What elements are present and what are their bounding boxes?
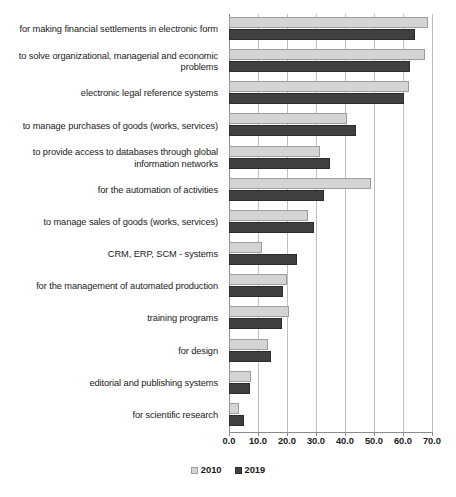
legend-swatch-2019-icon [235,467,242,474]
bar-2019 [229,383,250,394]
bar-2019 [229,351,271,362]
bar-2010 [229,49,425,60]
bar-group [229,14,432,46]
bar-2010 [229,81,409,92]
bar-group [229,368,432,400]
bar-2010 [229,242,262,253]
category-label: to manage sales of goods (works, service… [0,217,224,229]
bar-group [229,143,432,175]
legend-label-2019: 2019 [245,466,266,475]
bar-group [229,271,432,303]
bar-2010 [229,210,308,221]
bar-group [229,207,432,239]
bar-2019 [229,415,244,426]
bar-2010 [229,339,268,350]
bar-2010 [229,178,371,189]
legend-swatch-2010-icon [191,467,198,474]
bar-2019 [229,125,356,136]
category-label: for making financial settlements in elec… [0,24,224,36]
category-label: for design [0,346,224,358]
chart-legend: 2010 2019 [0,466,456,475]
bar-2019 [229,190,324,201]
bar-2010 [229,371,251,382]
bar-group [229,303,432,335]
bar-chart: for making financial settlements in elec… [0,0,456,497]
bar-2019 [229,286,283,297]
category-label: CRM, ERP, SCM - systems [0,249,224,261]
category-label: training programs [0,313,224,325]
bar-group [229,46,432,78]
bar-2010 [229,146,320,157]
category-label: to provide access to databases through g… [0,147,224,170]
bar-group [229,239,432,271]
bar-2010 [229,306,289,317]
bar-2010 [229,17,428,28]
category-label: for the automation of activities [0,185,224,197]
gridline-70.0 [432,14,433,432]
bar-group [229,175,432,207]
bar-2019 [229,222,314,233]
bar-2019 [229,93,404,104]
legend-label-2010: 2010 [201,466,222,475]
bar-2010 [229,274,287,285]
bar-group [229,336,432,368]
x-tick-label-70.0: 70.0 [412,436,452,446]
bar-group [229,110,432,142]
category-label: editorial and publishing systems [0,378,224,390]
category-label: to manage purchases of goods (works, ser… [0,121,224,133]
legend-item-2019: 2019 [235,466,266,475]
category-label: for the management of automated producti… [0,281,224,293]
bar-2019 [229,29,415,40]
bar-2019 [229,158,330,169]
category-label: for scientific research [0,410,224,422]
legend-item-2010: 2010 [191,466,222,475]
bar-group [229,400,432,432]
plot-area [229,14,432,432]
bar-2019 [229,61,410,72]
bar-2019 [229,318,282,329]
bar-group [229,78,432,110]
bar-2010 [229,113,347,124]
bar-2010 [229,403,239,414]
category-label: electronic legal reference systems [0,88,224,100]
category-label: to solve organizational, managerial and … [0,51,224,74]
bar-2019 [229,254,297,265]
